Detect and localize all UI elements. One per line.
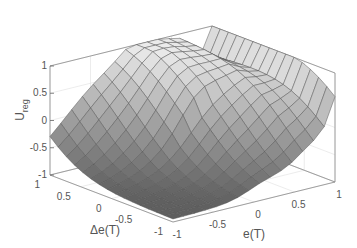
- e-tick-label: 0.5: [292, 199, 306, 210]
- x-axis-label: e(T): [243, 227, 265, 241]
- z-axis-label: Ureg: [13, 99, 30, 121]
- z-tick-label: 0.5: [33, 87, 47, 98]
- de-tick-label: 0: [96, 203, 102, 214]
- z-tick-label: 0: [41, 115, 47, 126]
- e-tick-label: -1: [173, 229, 182, 240]
- surface-plot: 10.50-0.5-110.50-0.5-1-1-0.500.51 Ureg Δ…: [0, 0, 357, 248]
- z-tick-label: -0.5: [30, 142, 48, 153]
- de-tick-label: 1: [34, 179, 40, 190]
- e-tick-label: -0.5: [209, 219, 227, 230]
- de-tick-label: -1: [154, 226, 163, 237]
- surface-mesh: [50, 26, 335, 219]
- y-axis-label: Δe(T): [90, 223, 120, 237]
- z-tick-label: 1: [41, 60, 47, 71]
- de-tick-label: 0.5: [57, 191, 71, 202]
- svg-text:Ureg: Ureg: [13, 99, 30, 121]
- e-tick-label: 0: [255, 209, 261, 220]
- e-tick-label: 1: [336, 189, 342, 200]
